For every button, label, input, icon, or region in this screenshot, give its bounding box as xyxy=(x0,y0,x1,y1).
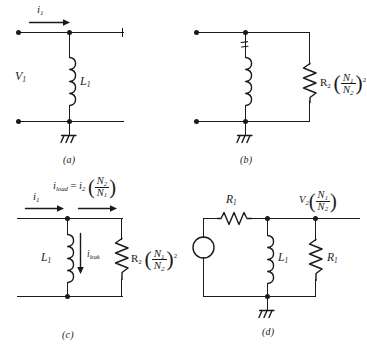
panel-d-label-v2: V2(N1N2) xyxy=(299,190,337,212)
panel-d-label-shunt-r1: R1 xyxy=(327,252,338,264)
panel-a-caption: (a) xyxy=(63,154,75,165)
panel-a-label-l1: L1 xyxy=(80,75,91,87)
panel-c-label-iload-equation: iload = i2 (N2N1) xyxy=(53,176,116,198)
panel-c-turns-ratio: N2N1 xyxy=(95,176,109,198)
panel-b-inductor-icon xyxy=(238,57,254,106)
panel-b-right-branch-upper xyxy=(309,32,310,65)
panel-c-right-branch-lower xyxy=(121,279,122,297)
panel-b-right-branch-lower xyxy=(309,101,310,122)
panel-c-ratio-paren-close: ) xyxy=(167,253,174,266)
panel-a-ground-icon xyxy=(60,133,80,144)
panel-b-paren-open: ( xyxy=(334,77,341,90)
panel-d-shunt-resistor-icon xyxy=(308,239,324,281)
panel-c-exponent: 2 xyxy=(174,252,177,259)
panel-d-turns-ratio: N1N2 xyxy=(316,190,330,212)
panel-c-r2-symbol: R2 xyxy=(131,252,145,264)
panel-b-terminal-top xyxy=(194,30,199,35)
panel-c-label-r2: R2 (N1N2)2 xyxy=(131,248,177,271)
panel-a-junction-top xyxy=(67,30,72,35)
panel-b: R2 (N1N2)2 (b) xyxy=(184,0,367,178)
panel-c-label-ileak: ileak xyxy=(87,250,100,260)
panel-a: i1 V1 L1 (a) xyxy=(0,0,184,178)
panel-d: R1 V2(N1N2) L1 R1 (d) xyxy=(184,178,367,355)
panel-c-equals: = xyxy=(71,180,77,191)
panel-d-caption: (d) xyxy=(262,326,274,337)
panel-c-label-l1: L1 xyxy=(41,252,51,264)
panel-d-label-l1: L1 xyxy=(278,252,288,264)
panel-a-open-terminal-icon xyxy=(122,28,123,37)
panel-b-ground-icon xyxy=(236,133,256,144)
panel-c-paren-open: ( xyxy=(88,181,95,193)
panel-a-terminal-top xyxy=(16,30,21,35)
panel-d-source-wire-lower xyxy=(203,257,204,297)
panel-c-bottom-wire xyxy=(17,296,123,297)
panel-c-paren-close: ) xyxy=(109,181,116,193)
panel-b-paren-close: ) xyxy=(356,77,363,90)
panel-d-junction-output xyxy=(313,216,318,221)
panel-c-current-arrow-iload xyxy=(78,204,118,213)
panel-a-terminal-bottom xyxy=(16,119,21,124)
panel-c-current-arrow-i1 xyxy=(25,204,65,213)
panel-b-resistor-icon xyxy=(302,63,318,103)
panel-c-caption: (c) xyxy=(62,329,74,340)
panel-b-r2-symbol: R2 xyxy=(320,76,334,88)
panel-d-v2-symbol: V2 xyxy=(299,194,309,205)
panel-d-inductor-icon xyxy=(260,235,276,284)
panel-c-resistor-icon xyxy=(114,238,130,280)
panel-b-bottom-wire xyxy=(196,121,310,122)
panel-c-inductor-icon xyxy=(60,234,76,283)
panel-c: i1 iload = i2 (N2N1) L1 ileak R2 (N1N2)2… xyxy=(0,178,184,355)
panel-d-junction-centre-top xyxy=(265,216,270,221)
panel-b-exponent: 2 xyxy=(363,76,366,83)
panel-c-junction-top xyxy=(65,216,70,221)
panel-b-terminal-bottom xyxy=(194,119,199,124)
panel-d-ground-icon xyxy=(258,308,278,319)
panel-c-junction-bottom xyxy=(65,294,70,299)
panel-c-i2-symbol: i2 xyxy=(79,180,85,191)
panel-a-branch-upper xyxy=(69,32,70,58)
panel-c-iload-symbol: iload xyxy=(53,180,68,191)
panel-a-label-i1: i1 xyxy=(37,4,44,15)
panel-d-bottom-wire xyxy=(203,296,316,297)
panel-b-label-r2: R2 (N1N2)2 xyxy=(320,72,366,95)
panel-d-label-series-r1: R1 xyxy=(226,194,237,206)
panel-b-top-wire xyxy=(196,32,310,33)
panel-b-turns-ratio: N1N2 xyxy=(341,72,356,95)
panel-b-caption: (b) xyxy=(240,154,252,165)
panel-c-current-arrow-ileak xyxy=(76,233,85,275)
panel-d-voltage-source-icon xyxy=(192,236,215,259)
panel-c-top-wire xyxy=(17,218,123,219)
panel-d-right-branch-upper xyxy=(315,218,316,241)
panel-d-paren-open: ( xyxy=(309,195,316,207)
panel-c-ratio-paren-open: ( xyxy=(145,253,152,266)
panel-d-paren-close: ) xyxy=(330,195,337,207)
panel-c-impedance-ratio: N1N2 xyxy=(152,248,167,271)
panel-b-print-artifact xyxy=(240,38,252,52)
panel-b-junction-top xyxy=(243,30,248,35)
panel-c-right-branch-upper xyxy=(121,218,122,240)
panel-d-series-resistor-icon xyxy=(217,211,252,226)
panel-c-label-i1: i1 xyxy=(33,191,40,202)
panel-a-current-arrow-i1 xyxy=(29,18,71,27)
panel-a-label-v1: V1 xyxy=(15,70,26,82)
panel-d-source-wire-upper xyxy=(203,218,204,238)
panel-a-inductor-icon xyxy=(62,57,78,106)
panel-d-right-branch-lower xyxy=(315,279,316,297)
